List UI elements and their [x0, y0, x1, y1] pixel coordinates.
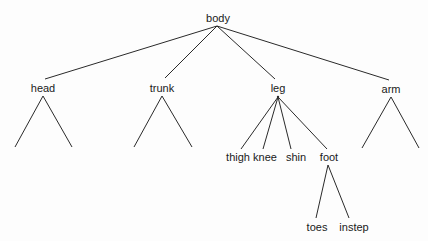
tree-edges — [0, 0, 428, 241]
edge-body-leg — [217, 26, 275, 79]
edge-trunk-unlabeled-4 — [162, 96, 192, 147]
edge-trunk-unlabeled-3 — [134, 96, 162, 147]
edge-head-unlabeled-2 — [43, 96, 72, 147]
edge-leg-foot — [278, 97, 327, 149]
edge-body-arm — [217, 26, 389, 80]
tree-diagram: body head trunk leg arm thigh knee shin … — [0, 0, 428, 241]
node-toes: toes — [307, 222, 328, 233]
edge-head-unlabeled-1 — [15, 96, 43, 147]
leg-junction-dot — [277, 96, 279, 98]
node-body: body — [206, 13, 230, 24]
edge-leg-shin — [278, 97, 291, 149]
node-head: head — [31, 83, 55, 94]
edge-foot-toes — [316, 165, 328, 218]
node-shin: shin — [286, 152, 306, 163]
node-trunk: trunk — [150, 83, 174, 94]
edge-arm-unlabeled-6 — [391, 97, 419, 148]
edge-leg-thigh — [241, 97, 278, 149]
node-instep: instep — [339, 222, 368, 233]
node-thigh: thigh — [226, 152, 250, 163]
edge-foot-instep — [328, 165, 349, 218]
node-foot: foot — [320, 152, 338, 163]
node-arm: arm — [382, 84, 401, 95]
edge-arm-unlabeled-5 — [362, 97, 391, 148]
node-leg: leg — [271, 83, 286, 94]
edge-leg-knee — [263, 97, 278, 149]
node-knee: knee — [253, 152, 277, 163]
